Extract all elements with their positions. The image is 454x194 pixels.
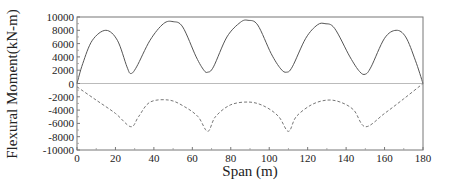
x-tick-label: 180 (415, 152, 432, 164)
y-tick-label: -10000 (43, 144, 75, 156)
y-tick-label: 4000 (52, 51, 75, 63)
x-tick-label: 20 (110, 152, 122, 164)
x-tick-label: 120 (299, 152, 316, 164)
y-tick-label: -8000 (48, 131, 74, 143)
y-tick-label: 0 (69, 78, 75, 90)
y-tick-label: -4000 (48, 104, 74, 116)
y-tick-label: 8000 (52, 24, 75, 36)
x-axis-label: Span (m) (222, 163, 277, 180)
x-tick-label: 0 (74, 152, 80, 164)
series-lines (77, 20, 423, 131)
y-axis-ticks: 1000080006000400020000-2000-4000-6000-80… (43, 11, 80, 156)
y-tick-label: 10000 (47, 11, 75, 23)
y-tick-label: 6000 (52, 38, 75, 50)
negative-moment-line (77, 84, 423, 132)
x-tick-label: 160 (376, 152, 393, 164)
x-tick-label: 60 (187, 152, 199, 164)
x-tick-label: 40 (148, 152, 160, 164)
y-tick-label: 2000 (52, 64, 75, 76)
y-tick-label: -6000 (48, 117, 74, 129)
x-tick-label: 140 (338, 152, 355, 164)
y-axis-label: Flexural Moment(kN-m) (4, 9, 21, 159)
y-tick-label: -2000 (48, 91, 74, 103)
positive-moment-line (77, 20, 423, 83)
